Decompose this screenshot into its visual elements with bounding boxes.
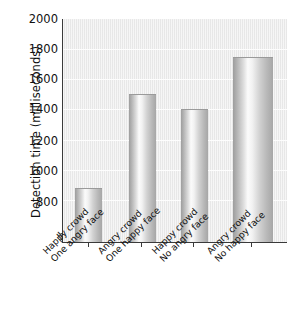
y-tick-label-1200: 1200 [24,136,58,148]
x-tick-mark-4 [251,243,252,247]
y-tick-label-1000: 1000 [24,166,58,178]
y-tick-label-2000: 2000 [24,14,58,26]
y-tick-label-1600: 1600 [24,74,58,86]
bar-chart-figure: Detection time (milliseconds) 2000 1800 … [0,0,300,324]
x-tick-mark-2 [141,243,142,247]
gridline-1800 [63,49,287,50]
x-tick-mark-3 [193,243,194,247]
y-tick-label-1800: 1800 [24,44,58,56]
y-tick-label-1400: 1400 [24,104,58,116]
x-tick-mark-1 [88,243,89,247]
y-tick-label-800: 800 [24,197,58,209]
y-axis-tick-labels: 2000 1800 1600 1400 1200 1000 800 [22,0,58,324]
